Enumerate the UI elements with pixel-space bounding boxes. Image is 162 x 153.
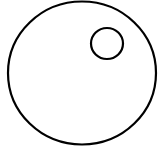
diagram-canvas [0,0,162,153]
background [0,0,162,153]
